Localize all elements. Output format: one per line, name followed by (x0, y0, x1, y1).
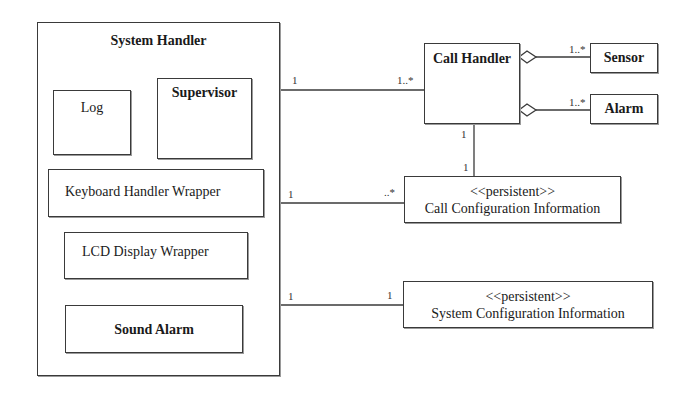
multiplicity-label: 1 (463, 161, 469, 173)
class-supervisor: Supervisor (157, 78, 252, 159)
multiplicity-label: ..* (384, 186, 395, 198)
multiplicity-label: 1 (292, 74, 298, 86)
class-name: System Configuration Information (404, 305, 652, 322)
class-name: Keyboard Handler Wrapper (49, 184, 263, 200)
class-lcd-display-wrapper: LCD Display Wrapper (64, 232, 248, 279)
stereotype: <<persistent>> (404, 288, 652, 305)
class-call-configuration-information: <<persistent>> Call Configuration Inform… (404, 176, 621, 223)
class-name: Call Handler (425, 51, 519, 67)
multiplicity-label: 1 (461, 128, 467, 140)
multiplicity-label: 1 (288, 188, 294, 200)
class-name: LCD Display Wrapper (65, 244, 247, 260)
class-name: Supervisor (158, 85, 251, 101)
class-alarm: Alarm (590, 94, 658, 124)
class-call-handler: Call Handler (424, 43, 520, 124)
class-system-configuration-information: <<persistent>> System Configuration Info… (403, 281, 653, 328)
class-name: Log (54, 100, 130, 116)
multiplicity-label: 1..* (569, 43, 586, 55)
class-name: Sensor (591, 50, 657, 66)
stereotype: <<persistent>> (405, 183, 620, 200)
multiplicity-label: 1 (387, 289, 393, 301)
class-name: Call Configuration Information (405, 200, 620, 217)
class-sound-alarm: Sound Alarm (65, 305, 243, 353)
class-log: Log (53, 90, 131, 155)
multiplicity-label: 1 (288, 290, 294, 302)
class-name: System Handler (38, 33, 279, 49)
multiplicity-label: 1..* (397, 74, 414, 86)
class-sensor: Sensor (590, 43, 658, 73)
class-keyboard-handler-wrapper: Keyboard Handler Wrapper (48, 169, 264, 217)
multiplicity-label: 1..* (569, 96, 586, 108)
class-name: Sound Alarm (66, 322, 242, 338)
class-name: Alarm (591, 101, 657, 117)
